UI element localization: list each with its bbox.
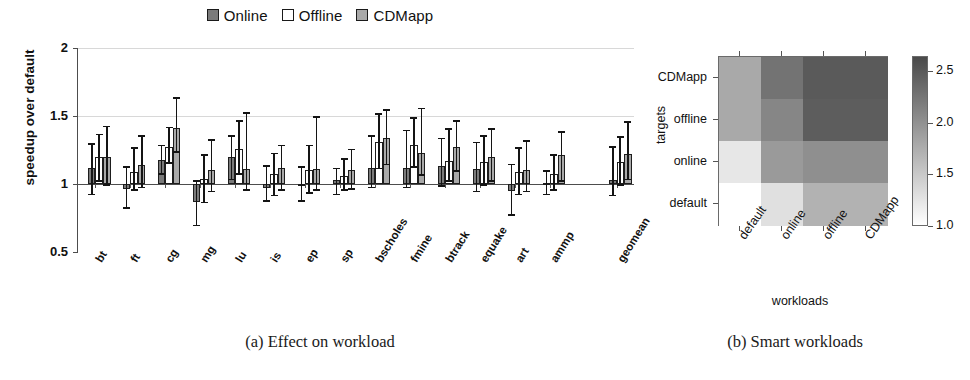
bar-chart-x-tick [550, 184, 551, 188]
bar-chart-x-tick [95, 184, 96, 188]
legend-item-cdmapp: CDMapp [356, 7, 433, 24]
error-bar-cap [166, 127, 173, 129]
heatmap-cell-offline-online [761, 99, 804, 142]
error-bar [98, 134, 100, 180]
heatmap-cell-online-CDMapp [845, 141, 888, 184]
error-bar-cap [123, 166, 130, 168]
bar-chart-x-tick [270, 184, 271, 188]
error-bar [476, 142, 478, 191]
error-bar-cap [473, 142, 480, 144]
error-bar-cap [138, 187, 145, 189]
error-bar [343, 158, 345, 189]
error-bar-cap [617, 136, 624, 138]
error-bar-cap [624, 121, 631, 123]
error-bar-cap [375, 168, 382, 170]
error-bar-cap [550, 154, 557, 156]
bar-chart-y-tick [73, 252, 78, 253]
error-bar [378, 113, 380, 167]
error-bar-cap [410, 166, 417, 168]
error-bar-cap [543, 194, 550, 196]
legend-label-offline: Offline [299, 7, 343, 24]
error-bar-cap [236, 120, 243, 122]
bar-chart-plot-area [78, 48, 634, 252]
heatmap-y-tick [713, 119, 718, 120]
error-bar-cap [508, 214, 515, 216]
error-bar-cap [523, 191, 530, 193]
error-bar [421, 108, 423, 175]
error-bar [371, 135, 373, 187]
error-bar-cap [103, 184, 110, 186]
error-bar [266, 165, 268, 200]
error-bar-cap [138, 135, 145, 137]
heatmap-cell-CDMapp-default [719, 57, 762, 100]
error-bar-cap [193, 180, 200, 182]
bar-chart-y-tick-label: 2 [34, 41, 68, 54]
error-bar [141, 135, 143, 187]
bar-chart-y-tick-label: 1 [34, 177, 68, 190]
error-bar [176, 97, 178, 151]
legend-swatch-cdmapp [356, 9, 368, 21]
heatmap-cell-online-default [719, 141, 762, 184]
colorbar-tick-label: 1.5 [936, 167, 953, 180]
error-bar [211, 139, 213, 191]
error-bar-cap [208, 191, 215, 193]
error-bar [308, 145, 310, 193]
error-bar-cap [131, 147, 138, 149]
error-bar-cap [271, 153, 278, 155]
heatmap-x-tick [823, 51, 824, 56]
error-bar-cap [166, 162, 173, 164]
error-bar-cap [201, 202, 208, 204]
error-bar [518, 147, 520, 193]
error-bar-cap [208, 139, 215, 141]
bar-chart-y-tick-label: 1.5 [34, 109, 68, 122]
error-bar [441, 138, 443, 186]
error-bar [351, 149, 353, 188]
error-bar-cap [368, 135, 375, 137]
legend-item-offline: Offline [282, 7, 343, 24]
error-bar-cap [348, 149, 355, 151]
error-bar-cap [228, 179, 235, 181]
error-bar [456, 120, 458, 170]
bar-chart-x-tick [165, 184, 166, 188]
error-bar-cap [263, 165, 270, 167]
legend-label-cdmapp: CDMapp [373, 7, 433, 24]
error-bar-cap [515, 194, 522, 196]
error-bar [561, 131, 563, 180]
heatmap-cell-CDMapp-CDMapp [845, 57, 888, 100]
error-bar-cap [383, 164, 390, 166]
heatmap-y-tick [713, 77, 718, 78]
error-bar-cap [523, 140, 530, 142]
colorbar-tick [928, 174, 933, 175]
error-bar [386, 109, 388, 163]
error-bar [546, 170, 548, 193]
legend-label-online: Online [224, 7, 268, 24]
error-bar [627, 121, 629, 178]
error-bar-cap [410, 117, 417, 119]
heatmap-panel: targets workloads CDMappofflineonlinedef… [640, 26, 970, 326]
error-bar-cap [298, 200, 305, 202]
error-bar-cap [445, 180, 452, 182]
bar-chart-x-tick-label: is [268, 250, 283, 264]
error-bar [553, 154, 555, 189]
heatmap-x-axis-label: workloads [700, 294, 900, 308]
error-bar-cap [333, 168, 340, 170]
error-bar-cap [271, 195, 278, 197]
error-bar-cap [123, 207, 130, 209]
error-bar-cap [278, 145, 285, 147]
bar-chart-y-axis-line [77, 48, 78, 252]
error-bar [238, 120, 240, 173]
error-bar [619, 136, 621, 184]
error-bar-cap [624, 179, 631, 181]
bar-chart-y-tick [73, 116, 78, 117]
heatmap-cell-offline-offline [803, 99, 846, 142]
error-bar-cap [508, 164, 515, 166]
figure-root: Online Offline CDMapp speedup over defau… [0, 0, 970, 380]
error-bar [406, 130, 408, 187]
error-bar-cap [173, 97, 180, 99]
error-bar-cap [201, 154, 208, 156]
error-bar [612, 146, 614, 195]
error-bar-cap [341, 158, 348, 160]
error-bar [483, 135, 485, 184]
error-bar-cap [333, 194, 340, 196]
heatmap-y-tick-label: online [635, 155, 707, 168]
